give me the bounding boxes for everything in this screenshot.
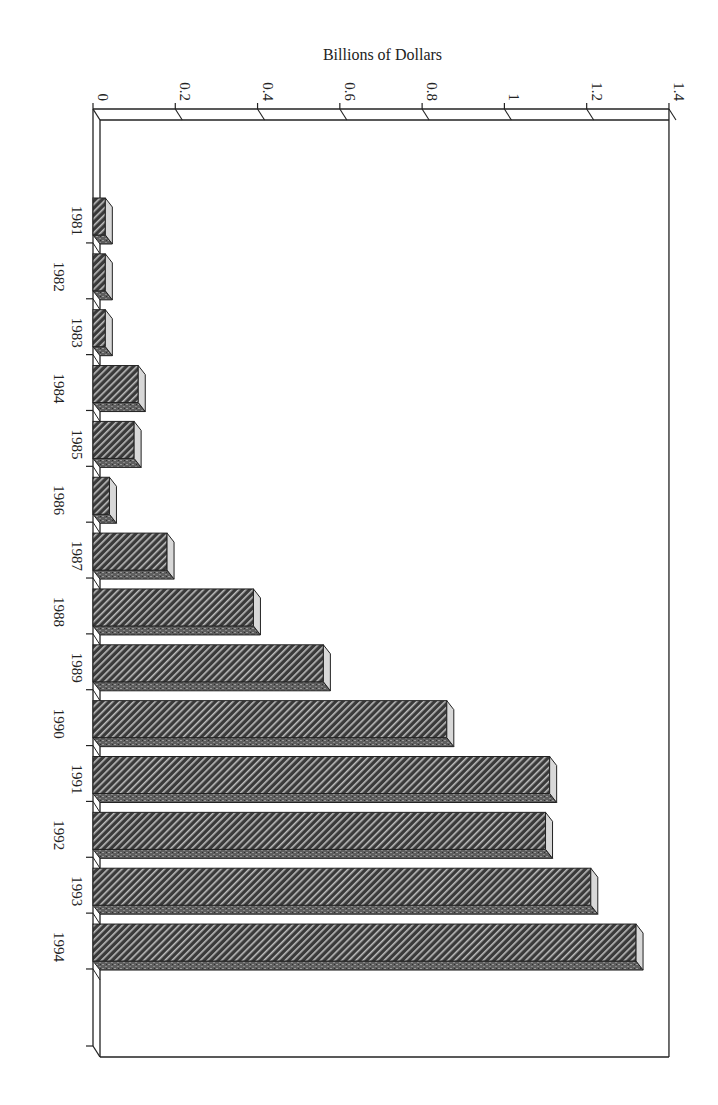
bar-1989 [93, 645, 330, 691]
value-tick-label: 1.4 [671, 82, 687, 101]
plot-frame [93, 109, 669, 1057]
bar-1986 [93, 477, 116, 523]
category-label: 1985 [69, 429, 85, 459]
bar-1988 [93, 589, 260, 635]
category-label: 1994 [51, 932, 67, 963]
bar-1982 [93, 254, 112, 300]
value-tick-label: 0.6 [342, 82, 358, 101]
bar-1990 [93, 701, 454, 747]
value-tick-label: 0.2 [177, 82, 193, 101]
value-tick-label: 1.2 [589, 82, 605, 101]
category-label: 1990 [51, 709, 67, 739]
bars-group [93, 198, 643, 980]
category-label: 1981 [69, 206, 85, 236]
value-axis: 00.20.40.60.811.21.4 [93, 82, 687, 120]
category-label: 1992 [51, 820, 67, 850]
category-label: 1989 [69, 653, 85, 683]
bar-1992 [93, 812, 553, 858]
bar-1991 [93, 757, 557, 803]
category-axis: 1981198219831984198519861987198819891990… [51, 206, 93, 1046]
category-label: 1982 [51, 262, 67, 292]
value-tick-label: 0.8 [424, 82, 440, 101]
category-label: 1984 [51, 374, 67, 405]
value-tick-label: 1 [506, 94, 522, 102]
bar-1983 [93, 310, 112, 356]
bar-chart: 00.20.40.60.811.21.4 1981198219831984198… [0, 0, 718, 1105]
category-label: 1986 [51, 485, 67, 516]
bar-1984 [93, 366, 145, 412]
bar-1987 [93, 533, 174, 579]
bar-1994 [93, 924, 643, 970]
bar-1981 [93, 198, 112, 244]
category-label: 1983 [69, 318, 85, 348]
category-label: 1988 [51, 597, 67, 627]
value-tick-label: 0.4 [260, 82, 276, 101]
category-label: 1993 [69, 876, 85, 906]
bar-1993 [93, 868, 598, 914]
category-label: 1991 [69, 765, 85, 795]
value-tick-label: 0 [95, 94, 111, 102]
category-label: 1987 [69, 541, 85, 572]
bar-1985 [93, 421, 141, 467]
